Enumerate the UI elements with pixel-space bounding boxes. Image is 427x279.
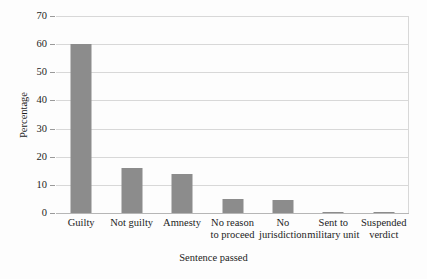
bar — [323, 212, 344, 213]
bar — [272, 200, 293, 213]
plot-area: 010203040506070GuiltyNot guiltyAmnestyNo… — [56, 16, 409, 213]
y-axis-tick-label: 50 — [37, 67, 48, 78]
x-axis-tick-label: Amnesty — [163, 217, 201, 229]
y-axis-tick-mark — [50, 100, 55, 101]
bar — [71, 44, 92, 213]
y-axis-tick-label: 70 — [37, 11, 48, 22]
y-axis-tick-label: 30 — [37, 123, 48, 134]
x-axis-tick-label: Guilty — [68, 217, 95, 229]
y-axis-label-container: Percentage — [14, 16, 28, 213]
bar — [222, 199, 243, 213]
gridline — [56, 129, 409, 130]
y-axis-label: Percentage — [18, 91, 29, 137]
x-axis-tick-label: No reason to proceed — [210, 217, 254, 240]
y-axis-tick-mark — [50, 213, 55, 214]
y-axis-tick-mark — [50, 129, 55, 130]
x-axis-label: Sentence passed — [0, 252, 427, 263]
bar-chart-figure: Percentage 010203040506070GuiltyNot guil… — [0, 0, 427, 279]
x-axis-tick-label: Suspended verdict — [361, 217, 407, 240]
x-axis-tick-label: Sent to military unit — [307, 217, 359, 240]
gridline — [56, 213, 409, 214]
y-axis-tick-mark — [50, 72, 55, 73]
y-axis-tick-label: 20 — [37, 151, 48, 162]
gridline — [56, 44, 409, 45]
y-axis-tick-mark — [50, 185, 55, 186]
gridline — [56, 16, 409, 17]
y-axis-tick-mark — [50, 157, 55, 158]
gridline — [56, 100, 409, 101]
y-axis-tick-mark — [50, 44, 55, 45]
y-axis-tick-label: 40 — [37, 95, 48, 106]
gridline — [56, 185, 409, 186]
bar — [121, 168, 142, 213]
bar — [373, 212, 394, 213]
plot-right-edge — [408, 16, 409, 213]
y-axis-tick-mark — [50, 16, 55, 17]
y-axis-tick-label: 0 — [42, 208, 47, 219]
bar — [172, 174, 193, 213]
y-axis-tick-label: 60 — [37, 39, 48, 50]
gridline — [56, 72, 409, 73]
y-axis-tick-label: 10 — [37, 180, 48, 191]
gridline — [56, 157, 409, 158]
x-axis-tick-label: Not guilty — [110, 217, 153, 229]
x-axis-tick-label: No jurisdiction — [259, 217, 307, 240]
